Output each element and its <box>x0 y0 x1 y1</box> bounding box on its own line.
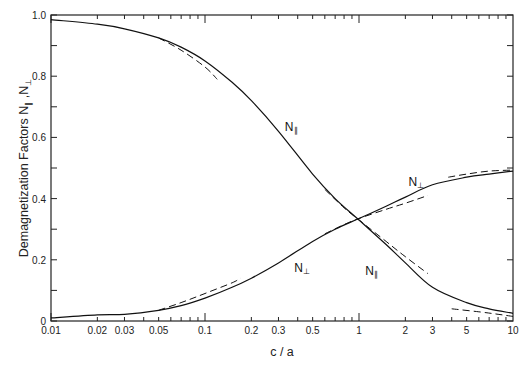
x-axis-ticks: 0.010.020.030.050.10.20.30.5123510 <box>41 15 519 336</box>
x-tick-label: 2 <box>403 325 409 336</box>
dashed-approx-curve <box>159 38 218 79</box>
curve-label: N∥ <box>285 120 298 135</box>
dashed-approx-curve <box>159 278 241 310</box>
dashed-approx-curve <box>452 309 513 317</box>
solid-curve <box>51 171 513 318</box>
x-tick-label: 0.1 <box>198 325 212 336</box>
y-tick-label: 0.6 <box>32 132 46 143</box>
x-axis-title: c / a <box>270 345 294 359</box>
y-axis-title: Demagnetization Factors N∥ ,N⊥ <box>17 79 33 257</box>
y-tick-label: 0.8 <box>32 71 46 82</box>
y-axis-ticks: 00.20.40.60.81.0 <box>32 10 513 327</box>
y-tick-label: 1.0 <box>32 10 46 21</box>
x-tick-label: 0.02 <box>88 325 108 336</box>
curve-label: N∥ <box>365 264 378 279</box>
x-tick-label: 1 <box>356 325 362 336</box>
x-tick-label: 0.03 <box>115 325 135 336</box>
x-tick-label: 10 <box>507 325 519 336</box>
solid-curve <box>51 20 513 314</box>
plot-frame <box>51 15 513 321</box>
dashed-approx-curve <box>448 170 513 177</box>
x-tick-label: 0.05 <box>149 325 169 336</box>
x-tick-label: 0.5 <box>306 325 320 336</box>
y-tick-label: 0.2 <box>32 255 46 266</box>
plot-axes <box>51 15 513 321</box>
dashed-approx-curve <box>325 189 428 273</box>
x-tick-label: 3 <box>430 325 436 336</box>
dashed-approx-curve <box>325 196 428 234</box>
x-tick-label: 5 <box>464 325 470 336</box>
chart: 0.010.020.030.050.10.20.30.5123510 00.20… <box>0 0 530 368</box>
x-tick-label: 0.2 <box>244 325 258 336</box>
svg-text:Demagnetization Factors N∥ ,N⊥: Demagnetization Factors N∥ ,N⊥ <box>17 79 33 257</box>
curve-label: N⊥ <box>409 175 425 190</box>
curve-label: N⊥ <box>294 261 310 276</box>
y-tick-label: 0 <box>40 316 46 327</box>
x-tick-label: 0.3 <box>272 325 286 336</box>
y-tick-label: 0.4 <box>32 194 46 205</box>
data-curves <box>51 20 513 318</box>
